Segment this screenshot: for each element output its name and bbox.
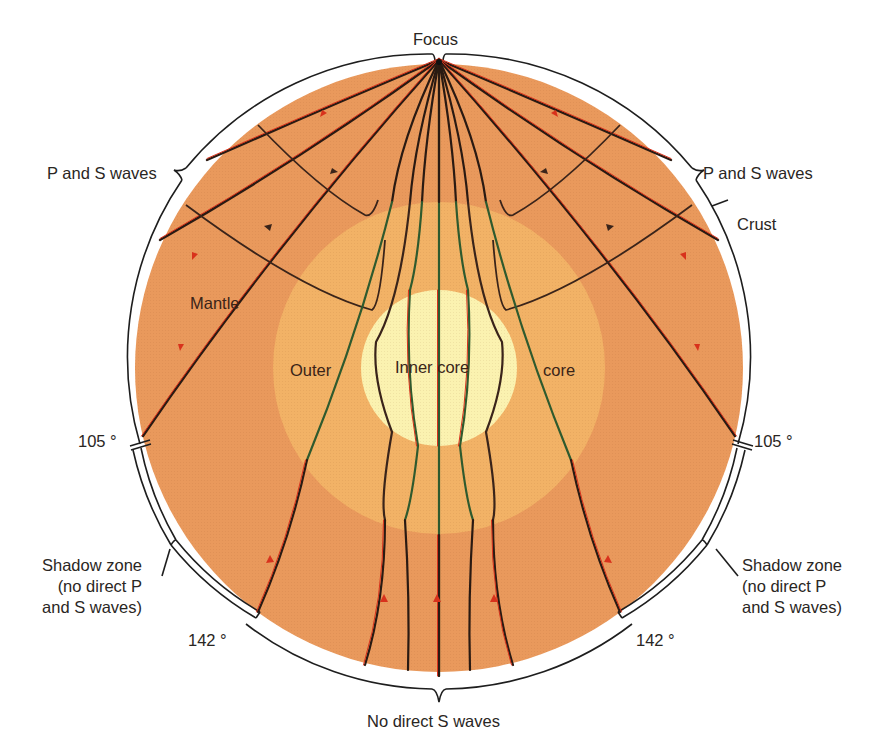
label-focus: Focus	[413, 29, 458, 49]
label-142-right: 142 °	[636, 630, 675, 650]
label-crust: Crust	[737, 214, 776, 234]
label-mantle: Mantle	[190, 293, 240, 313]
label-p-and-s-waves-right: P and S waves	[703, 163, 813, 183]
label-105-left: 105 °	[78, 431, 117, 451]
label-shadow-zone-left: Shadow zone (no direct P and S waves)	[26, 555, 142, 618]
label-outer: Outer	[290, 360, 331, 380]
focus-point	[436, 59, 442, 65]
label-142-left: 142 °	[188, 630, 227, 650]
label-inner-core: Inner core	[395, 357, 469, 377]
label-shadow-zone-right: Shadow zone (no direct P and S waves)	[742, 555, 842, 618]
label-105-right: 105 °	[754, 431, 793, 451]
label-p-and-s-waves-left: P and S waves	[47, 163, 157, 183]
label-core: core	[543, 360, 575, 380]
label-no-direct-s-waves: No direct S waves	[367, 711, 500, 731]
